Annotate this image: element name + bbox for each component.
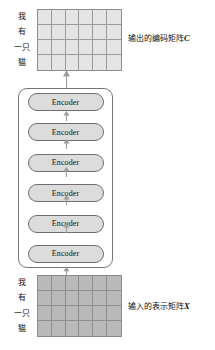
matrix-cell — [107, 276, 121, 291]
matrix-cell — [107, 306, 121, 321]
input-matrix-token-labels: 我 有 一只 猫 — [9, 275, 35, 337]
token-label: 一只 — [14, 44, 30, 52]
matrix-cell — [52, 10, 66, 25]
matrix-cell — [38, 306, 52, 321]
matrix-cell — [107, 10, 121, 25]
output-encoding-matrix — [37, 9, 122, 71]
matrix-cell — [107, 55, 121, 70]
encoder-block-6[interactable]: Encoder — [28, 93, 104, 111]
arrow-up-icon-between-blocks — [62, 167, 71, 177]
matrix-cell — [93, 306, 107, 321]
arrow-up-icon-stack-to-output — [62, 70, 71, 89]
matrix-cell — [93, 291, 107, 306]
matrix-cell — [66, 306, 80, 321]
matrix-cell — [38, 55, 52, 70]
input-matrix-caption: 输入的表示矩阵X — [128, 301, 190, 312]
encoder-block-label: Encoder — [52, 249, 79, 258]
matrix-cell — [52, 55, 66, 70]
matrix-cell — [93, 40, 107, 55]
encoder-stack-container: Encoder Encoder Encoder Encoder Encoder … — [18, 88, 113, 268]
matrix-cell — [107, 321, 121, 336]
matrix-cell — [38, 25, 52, 40]
encoder-stack-diagram: 我 有 一只 猫 输出的编码矩阵C Encoder Encoder Encode… — [0, 0, 215, 350]
matrix-cell — [52, 306, 66, 321]
encoder-block-1[interactable]: Encoder — [28, 245, 104, 263]
matrix-cell — [52, 291, 66, 306]
matrix-cell — [93, 10, 107, 25]
input-matrix-caption-text: 输入的表示矩阵 — [128, 302, 184, 311]
matrix-cell — [93, 25, 107, 40]
arrow-up-icon-between-blocks — [62, 195, 71, 205]
matrix-cell — [38, 321, 52, 336]
encoder-block-label: Encoder — [52, 128, 79, 137]
matrix-cell — [52, 40, 66, 55]
token-label: 猫 — [18, 325, 26, 333]
encoder-block-label: Encoder — [52, 158, 79, 167]
matrix-cell — [66, 55, 80, 70]
matrix-cell — [107, 40, 121, 55]
matrix-cell — [107, 25, 121, 40]
arrow-up-icon-between-blocks — [62, 223, 71, 233]
token-label: 有 — [18, 28, 26, 36]
input-matrix-variable: X — [184, 301, 190, 311]
matrix-cell — [79, 291, 93, 306]
matrix-cell — [52, 25, 66, 40]
matrix-cell — [93, 276, 107, 291]
matrix-cell — [66, 10, 80, 25]
matrix-cell — [79, 306, 93, 321]
matrix-cell — [79, 40, 93, 55]
matrix-cell — [79, 25, 93, 40]
matrix-cell — [66, 291, 80, 306]
arrow-up-icon-between-blocks — [62, 139, 71, 149]
matrix-cell — [66, 40, 80, 55]
token-label: 有 — [18, 294, 26, 302]
matrix-cell — [66, 25, 80, 40]
matrix-cell — [52, 276, 66, 291]
matrix-cell — [38, 276, 52, 291]
matrix-cell — [79, 276, 93, 291]
matrix-cell — [52, 321, 66, 336]
token-label: 我 — [18, 279, 26, 287]
output-matrix-variable: C — [184, 33, 190, 43]
output-matrix-caption: 输出的编码矩阵C — [128, 33, 190, 44]
matrix-cell — [79, 321, 93, 336]
matrix-cell — [93, 321, 107, 336]
matrix-cell — [38, 40, 52, 55]
matrix-cell — [107, 291, 121, 306]
token-label: 我 — [18, 13, 26, 21]
input-representation-matrix — [37, 275, 122, 337]
output-matrix-token-labels: 我 有 一只 猫 — [9, 9, 35, 71]
encoder-block-label: Encoder — [52, 98, 79, 107]
arrow-up-icon-between-blocks — [62, 111, 71, 121]
output-matrix-caption-text: 输出的编码矩阵 — [128, 34, 184, 43]
token-label: 一只 — [14, 310, 30, 318]
matrix-cell — [66, 321, 80, 336]
matrix-cell — [66, 276, 80, 291]
matrix-cell — [79, 55, 93, 70]
matrix-cell — [38, 291, 52, 306]
matrix-cell — [38, 10, 52, 25]
token-label: 猫 — [18, 59, 26, 67]
matrix-cell — [79, 10, 93, 25]
matrix-cell — [93, 55, 107, 70]
